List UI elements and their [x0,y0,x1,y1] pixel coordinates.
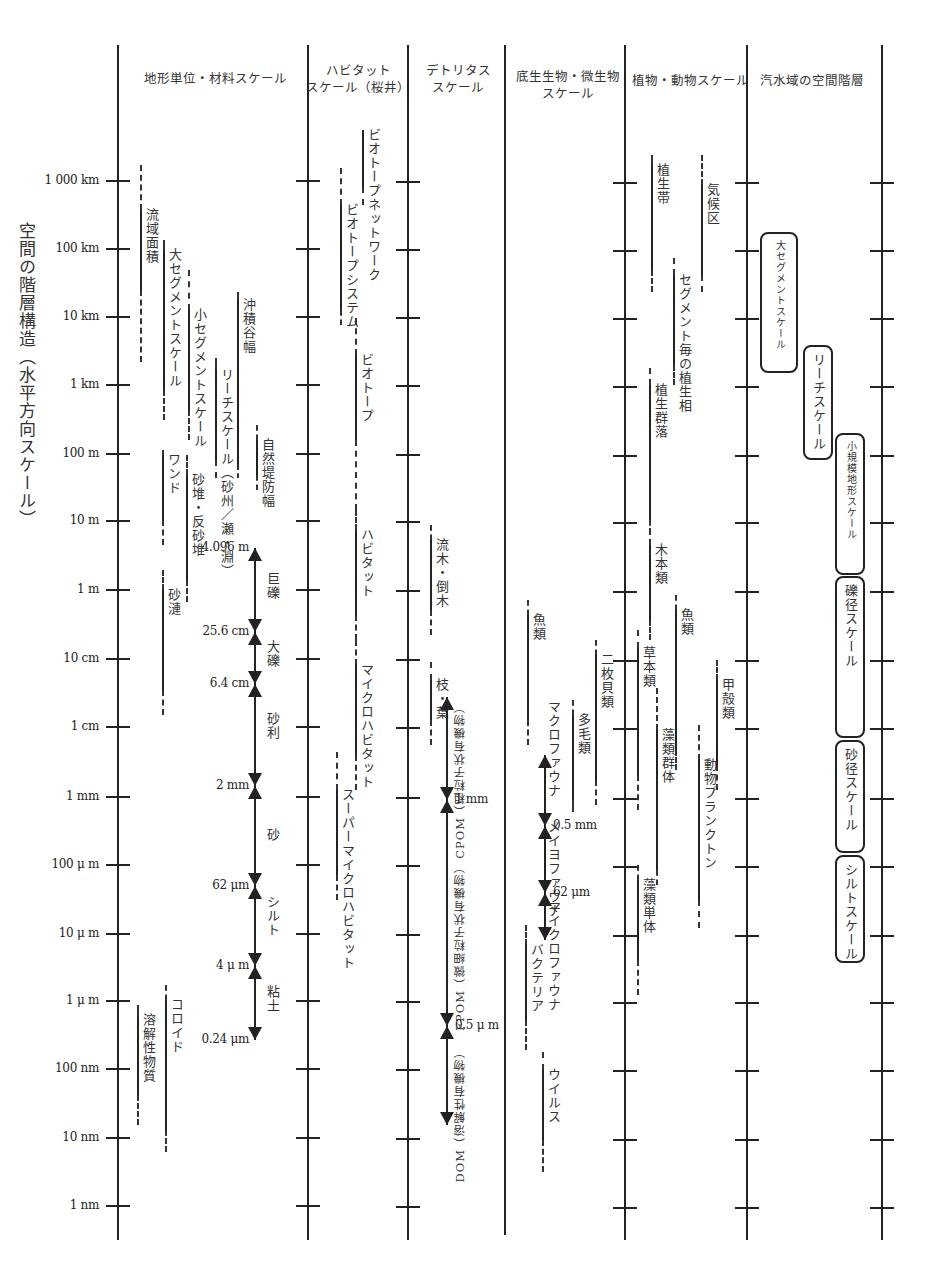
range-extent-dashed [165,1130,167,1152]
tick-mark [613,318,637,320]
estuary-scale-label: シルトスケール [843,863,857,961]
scale-tick-label: 1 mm [4,789,99,803]
range-label: 気候区 [705,183,719,225]
tick-mark [735,935,759,937]
range-extent-dashed [137,1005,139,1015]
size-class-label: 大礫 [265,640,279,668]
arrow-head-down-icon [248,873,262,886]
tick-mark [735,318,759,320]
range-extent-dashed [701,155,703,185]
size-class-label: 粘土 [265,985,279,1013]
range-label: バクテリア [529,943,543,1013]
scale-tick-label: 10 cm [4,651,99,665]
tick-mark [106,726,130,728]
tick-mark [296,520,320,522]
tick-mark [613,798,637,800]
tick-mark [735,250,759,252]
boundary-value-label: 4.096 m [193,540,249,554]
scale-tick-label: 10 nm [4,1130,99,1144]
range-extent-dashed [572,800,574,812]
tick-mark [396,590,420,592]
range-label: 動物プランクトン [702,758,716,870]
tick-mark [870,182,894,184]
range-extent-dashed [651,270,653,292]
column-header-landform: 地形単位・材料スケール [135,70,295,87]
vertical-axis-end [881,45,883,1240]
range-core-solid [637,880,639,960]
range-extent-dashed [355,440,357,510]
tick-mark [106,316,130,318]
arrow-head-down-icon [440,787,454,800]
range-core-solid [542,1070,544,1140]
range-extent-dashed [572,700,574,715]
tick-mark [870,1002,894,1004]
range-label: 砂漣 [166,588,180,616]
tick-mark [106,180,130,182]
range-extent-dashed [675,750,677,770]
range-core-solid [527,615,529,720]
tick-mark [613,591,637,593]
range-extent-dashed [336,875,338,900]
range-label: 植生群落 [653,383,667,439]
scale-tick-label: 1 000 km [4,173,99,187]
range-extent-dashed [595,640,597,655]
vertical-axis-habitat [307,45,309,1240]
range-label: スーパーマイクロハビタット [340,788,354,970]
spatial-hierarchy-diagram: 空間の階層構造（水平方向スケール） 地形単位・材料スケールハビタットスケール（桜… [0,0,926,1261]
arrow-head-down-icon [248,953,262,966]
arrow-head-up-icon [440,697,454,710]
tick-mark [613,386,637,388]
range-label: ビオトープ [359,353,373,423]
arrow-head-down-icon [440,1013,454,1026]
tick-mark [296,180,320,182]
range-label: マイクロハビタット [359,663,373,789]
boundary-value-label: 2 mm [193,778,249,792]
tick-mark [106,1137,130,1139]
range-extent-dashed [673,258,675,275]
arrow-head-down-icon [248,1027,262,1040]
estuary-scale-box: 砂径スケール [835,740,865,853]
tick-mark [296,1137,320,1139]
estuary-scale-box: リーチスケール [803,345,833,460]
tick-mark [106,589,130,591]
tick-mark [613,728,637,730]
range-extent-dashed [336,752,338,790]
range-label: 藻類群体 [660,728,674,784]
tick-mark [106,933,130,935]
size-class-label: マクロファウナ [546,700,560,798]
range-extent-dashed [649,528,651,545]
range-extent-dashed [215,460,217,478]
tick-mark [106,520,130,522]
range-label: ワンド [166,453,180,495]
tick-mark [296,589,320,591]
estuary-scale-label: 大セグメントスケール [772,240,786,350]
tick-mark [396,659,420,661]
range-extent-dashed [430,720,432,745]
range-core-solid [637,648,639,775]
range-extent-dashed [355,755,357,790]
range-core-solid [430,680,432,720]
range-extent-dashed [527,720,529,745]
tick-mark [613,1070,637,1072]
range-core-solid [237,300,239,465]
tick-mark [396,1138,420,1140]
size-class-label: DOM（溶解性有機物） [453,1045,467,1182]
range-core-solid [355,530,357,615]
range-label: ウイルス [546,1068,560,1124]
range-label: ビオトープシステム [344,203,358,329]
arrow-head-down-icon [440,1112,454,1125]
size-class-label: マイクロファウナ [546,900,560,1012]
range-core-solid [572,715,574,800]
range-core-solid [162,455,164,520]
size-class-label: 砂利 [265,712,279,740]
scale-tick-label: 1 nm [4,1198,99,1212]
scale-tick-label: 10 μ m [4,926,99,940]
tick-mark [106,1000,130,1002]
range-extent-dashed [165,985,167,1000]
tick-mark [296,316,320,318]
scale-tick-label: 100 m [4,446,99,460]
tick-mark [396,249,420,251]
tick-mark [106,248,130,250]
range-extent-dashed [163,240,165,250]
boundary-value-label: 0.24 μm [193,1032,249,1046]
